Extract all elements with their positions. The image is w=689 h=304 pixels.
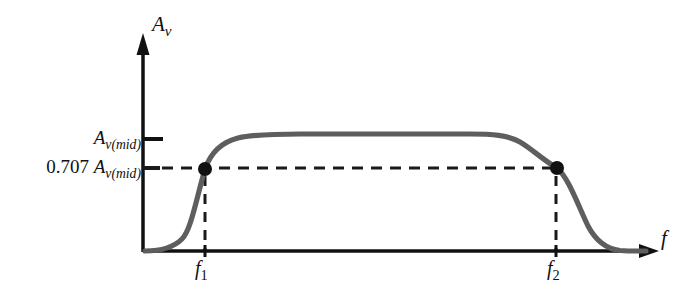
av-mid-subscript: v(mid) <box>105 137 141 152</box>
gain-response-curve <box>145 134 646 251</box>
x-tick-label-f2: f2 <box>547 258 560 282</box>
av-mid-707-subscript: v(mid) <box>105 166 141 181</box>
y-tick-label-av-mid: Av(mid) <box>94 128 141 151</box>
av-mid-707-prefix: 0.707 <box>46 156 94 177</box>
av-mid-main: A <box>94 127 106 148</box>
x-axis-label: f <box>661 228 667 249</box>
f1-subscript: 1 <box>201 267 208 283</box>
x-axis-label-main: f <box>661 226 667 250</box>
y-tick-label-av-mid-707: 0.707 Av(mid) <box>46 157 141 180</box>
response-curve-plot <box>0 0 689 304</box>
x-tick-label-f1: f1 <box>195 258 208 282</box>
av-mid-707-main: A <box>94 156 106 177</box>
f2-subscript: 2 <box>553 267 560 283</box>
y-axis-label-main: A <box>152 12 165 36</box>
marker-f2-point <box>550 161 564 175</box>
y-axis-label: Av <box>152 14 172 39</box>
marker-f1-point <box>198 162 212 176</box>
x-axis <box>143 244 659 258</box>
y-axis-label-subscript: v <box>165 23 172 39</box>
frequency-response-figure: Av f Av(mid) 0.707 Av(mid) f1 f2 <box>0 0 689 304</box>
